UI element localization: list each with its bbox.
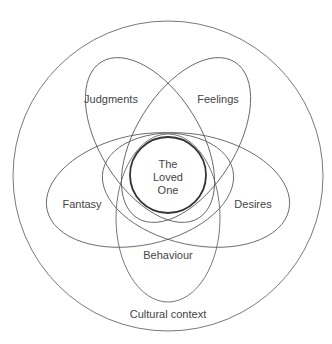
center-label-line-3: One — [158, 184, 179, 196]
cultural-context-label: Cultural context — [130, 308, 206, 320]
fantasy-ellipse — [36, 116, 245, 263]
desires-ellipse — [92, 116, 301, 263]
center-label-line-2: Loved — [153, 171, 183, 183]
judgments-ellipse — [59, 35, 241, 244]
desires-label: Desires — [234, 198, 272, 210]
judgments-label: Judgments — [84, 93, 138, 105]
center-label-line-1: The — [159, 158, 178, 170]
fantasy-label: Fantasy — [62, 198, 102, 210]
loved-one-diagram: Judgments Feelings Fantasy Desires Behav… — [0, 0, 332, 344]
feelings-label: Feelings — [197, 93, 239, 105]
feelings-ellipse — [95, 35, 277, 244]
behaviour-label: Behaviour — [143, 249, 193, 261]
